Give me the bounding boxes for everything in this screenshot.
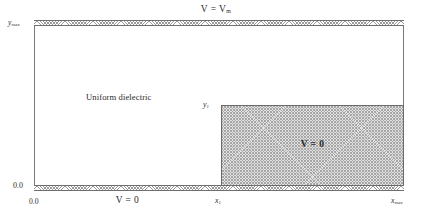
y-step-tick-label: y1 bbox=[203, 101, 209, 110]
y-step-subscript: 1 bbox=[206, 104, 209, 109]
top-electrode-boundary bbox=[34, 20, 404, 26]
x-max-tick-label: xmax bbox=[391, 197, 403, 206]
x-step-subscript: 1 bbox=[218, 200, 221, 205]
dielectric-region-label: Uniform dielectric bbox=[86, 93, 152, 102]
x-max-subscript: max bbox=[394, 200, 402, 205]
top-potential-subscript: m bbox=[226, 8, 231, 14]
y-max-tick-label: ymax bbox=[8, 19, 20, 28]
top-potential-text: V = V bbox=[201, 4, 227, 14]
y-origin-tick-label: 0.0 bbox=[13, 182, 23, 190]
bottom-potential-label: V = 0 bbox=[34, 196, 221, 206]
top-potential-label: V = Vm bbox=[0, 5, 432, 15]
x-origin-tick-label: 0.0 bbox=[29, 198, 39, 206]
electrostatic-domain-figure: V = Vm V = 0 V = 0 Uniform dielectric ym… bbox=[0, 0, 432, 217]
y-max-subscript: max bbox=[11, 22, 19, 27]
conductor-potential-label: V = 0 bbox=[221, 140, 404, 150]
x-step-tick-label: x1 bbox=[215, 197, 221, 206]
